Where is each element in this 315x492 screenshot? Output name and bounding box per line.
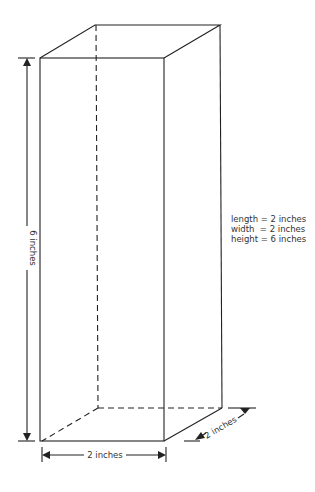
arrow-left-icon (42, 451, 50, 459)
length-label: 2 inches (87, 450, 123, 460)
prism-diagram: 6 inches 2 inches 2 inches (0, 0, 315, 492)
arrow-down-icon (240, 408, 250, 414)
hidden-edges (42, 25, 222, 441)
arrow-down-icon (23, 433, 31, 441)
front-face (40, 58, 164, 441)
top-face (40, 25, 220, 58)
arrow-up-icon (23, 58, 31, 66)
legend-height: height = 6 inches (231, 234, 306, 244)
width-label: 2 inches (203, 414, 239, 441)
legend-width: width = 2 inches (231, 224, 306, 234)
arrow-right-icon (158, 451, 166, 459)
height-label: 6 inches (28, 230, 38, 266)
legend-length: length = 2 inches (231, 214, 306, 224)
dimensions-legend: length = 2 inches width = 2 inches heigh… (231, 214, 306, 244)
